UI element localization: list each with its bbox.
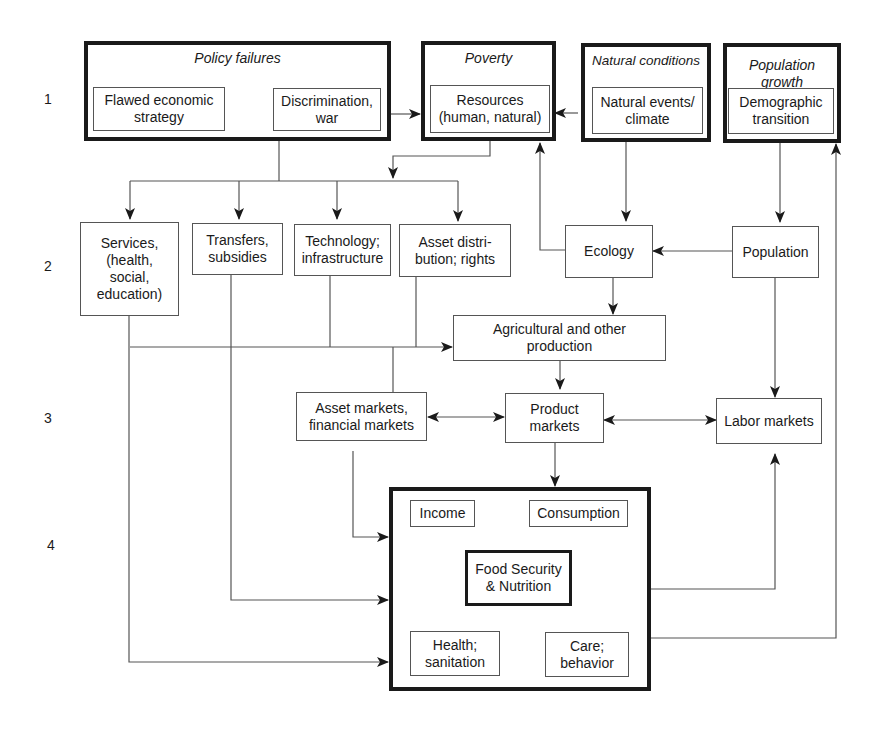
services-box: Services, (health, social, education)	[80, 222, 179, 316]
agricultural-production-box: Agricultural and other production	[453, 315, 666, 361]
resources-box: Resources (human, natural)	[430, 85, 550, 133]
discrimination-war-box: Discrimination, war	[273, 88, 381, 131]
health-sanitation-box: Health; sanitation	[410, 631, 500, 676]
row-label-3: 3	[44, 410, 52, 426]
row-label-4: 4	[47, 537, 55, 553]
demographic-transition-box: Demographic transition	[728, 88, 834, 134]
poverty-title: Poverty	[425, 50, 552, 67]
transfers-subsidies-box: Transfers, subsidies	[192, 223, 283, 275]
flawed-economic-strategy-box: Flawed economic strategy	[93, 87, 225, 131]
consumption-box: Consumption	[529, 500, 628, 527]
population-box: Population	[732, 226, 819, 278]
ecology-box: Ecology	[565, 225, 653, 278]
food-security-framework-diagram: 1 2 3 4 Policy failures Flawed economic …	[0, 0, 881, 731]
asset-distribution-rights-box: Asset distri- bution; rights	[399, 224, 511, 277]
labor-markets-box: Labor markets	[716, 398, 822, 444]
care-behavior-box: Care; behavior	[545, 632, 629, 677]
natural-conditions-title: Natural conditions	[585, 52, 707, 69]
row-label-1: 1	[44, 91, 52, 107]
natural-events-climate-box: Natural events/ climate	[592, 87, 703, 134]
product-markets-box: Product markets	[505, 393, 604, 443]
population-growth-title: Population growth	[727, 57, 837, 91]
food-security-nutrition-box: Food Security & Nutrition	[465, 550, 572, 606]
row-label-2: 2	[44, 258, 52, 274]
policy-failures-title: Policy failures	[88, 50, 387, 67]
technology-infrastructure-box: Technology; infrastructure	[294, 224, 391, 276]
income-box: Income	[410, 500, 475, 527]
asset-markets-box: Asset markets, financial markets	[296, 392, 427, 441]
